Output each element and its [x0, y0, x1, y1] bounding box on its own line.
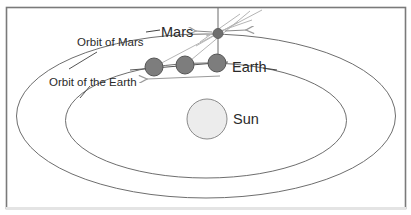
earth-position-2	[176, 56, 194, 74]
earth-position-3	[208, 54, 226, 72]
retrograde-diagram: Orbit of Mars Mars Orbit of the Earth Ea…	[0, 0, 411, 215]
earth-label: Earth	[232, 59, 267, 75]
orbit-earth-label: Orbit of the Earth	[49, 76, 137, 88]
sun-label: Sun	[233, 111, 259, 127]
sun	[187, 99, 227, 139]
mars-label: Mars	[161, 24, 193, 40]
mars-position	[213, 29, 223, 39]
orbit-mars-label: Orbit of Mars	[77, 36, 144, 48]
earth-position-1	[145, 58, 163, 76]
frame-bottom-shade	[6, 207, 406, 210]
